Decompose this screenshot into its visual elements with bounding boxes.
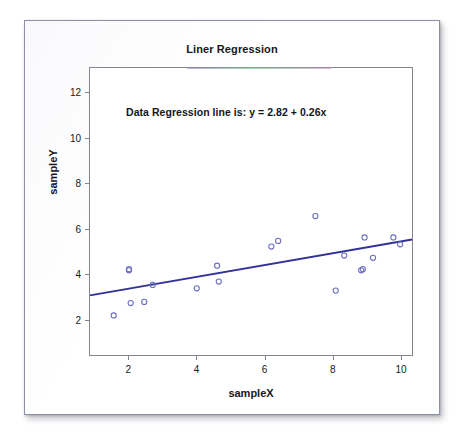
x-tick-mark [128,356,129,360]
scatter-point [269,244,274,249]
screenshot-root: Liner Regression Data Regression line is… [0,0,465,437]
y-tick-label: 4 [55,269,81,280]
scatter-point [216,279,221,284]
x-axis-title: sampleX [89,387,413,399]
x-tick-mark [265,356,266,360]
y-tick-mark [85,274,89,275]
y-tick-label: 6 [55,223,81,234]
plot-area: Data Regression line is: y = 2.82 + 0.26… [89,67,413,356]
scatter-point [128,300,133,305]
scatter-point [362,235,367,240]
scatter-point [111,313,116,318]
x-tick-label: 4 [194,364,200,375]
scatter-point [370,255,375,260]
figure-frame: Liner Regression Data Regression line is… [24,20,440,415]
y-tick-label: 2 [55,314,81,325]
scatter-point [342,253,347,258]
x-tick-mark [401,356,402,360]
y-tick-mark [85,183,89,184]
y-tick-mark [85,229,89,230]
x-tick-label: 10 [396,364,407,375]
scatter-point [142,299,147,304]
y-tick-mark [85,320,89,321]
scatter-point [194,286,199,291]
chart-title: Liner Regression [25,43,439,55]
x-tick-label: 2 [125,364,131,375]
y-tick-mark [85,92,89,93]
regression-line-segment [90,239,412,295]
y-axis-title: sampleY [47,122,59,222]
x-tick-mark [333,356,334,360]
scatter-point [313,213,318,218]
scatter-point [333,288,338,293]
regression-equation-annotation: Data Regression line is: y = 2.82 + 0.26… [126,106,327,118]
scatter-point [276,238,281,243]
regression-line [90,239,412,295]
x-tick-label: 8 [330,364,336,375]
y-tick-mark [85,138,89,139]
x-tick-label: 6 [262,364,268,375]
x-tick-mark [196,356,197,360]
y-tick-label: 12 [55,87,81,98]
scatter-point [215,263,220,268]
scatter-point [391,235,396,240]
